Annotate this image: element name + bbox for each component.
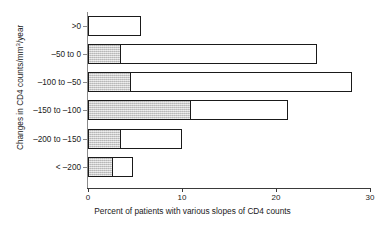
x-tick-mark-3 — [370, 188, 371, 192]
bar-shaded-1 — [88, 44, 121, 64]
x-tick-label-1: 10 — [178, 193, 187, 202]
bar-total-1 — [88, 44, 317, 64]
y-tick-label-2: –100 to –50 — [38, 78, 81, 87]
y-axis-title-post: /year — [16, 25, 25, 43]
bar-row — [88, 44, 317, 64]
bar-row — [88, 100, 288, 120]
y-tick-label-4: –200 to –150 — [33, 135, 81, 144]
y-tick-label-1: –50 to 0 — [51, 50, 81, 59]
y-tick-mark — [83, 82, 87, 83]
bar-row — [88, 129, 182, 149]
x-tick-mark-2 — [276, 188, 277, 192]
bar-row — [88, 72, 352, 92]
y-axis-title-superscript: 3 — [15, 43, 21, 46]
y-tick-label-3: –150 to –100 — [33, 106, 81, 115]
bar-row — [88, 157, 133, 177]
y-axis-title-pre: Changes in CD4 counts/mm — [16, 46, 25, 150]
x-tick-label-3: 30 — [366, 193, 375, 202]
x-tick-label-2: 20 — [272, 193, 281, 202]
y-tick-mark — [83, 54, 87, 55]
y-tick-mark — [83, 139, 87, 140]
bar-row — [88, 16, 141, 36]
y-tick-label-5: < –200 — [56, 163, 81, 172]
x-axis-line — [87, 188, 371, 189]
bar-shaded-2 — [88, 72, 131, 92]
bar-total-0 — [88, 16, 141, 36]
bar-shaded-3 — [88, 100, 191, 120]
y-tick-label-0: >0 — [72, 22, 81, 31]
x-tick-mark-1 — [182, 188, 183, 192]
x-tick-label-0: 0 — [86, 193, 90, 202]
x-axis-title: Percent of patients with various slopes … — [0, 206, 385, 216]
bar-shaded-4 — [88, 129, 121, 149]
y-axis-title: Changes in CD4 counts/mm3/year — [15, 0, 26, 177]
y-tick-mark — [83, 167, 87, 168]
bar-shaded-5 — [88, 157, 113, 177]
y-tick-mark — [83, 26, 87, 27]
x-tick-mark-0 — [88, 188, 89, 192]
y-tick-mark — [83, 110, 87, 111]
chart-figure: Changes in CD4 counts/mm3/year >0 –50 to… — [0, 0, 385, 226]
